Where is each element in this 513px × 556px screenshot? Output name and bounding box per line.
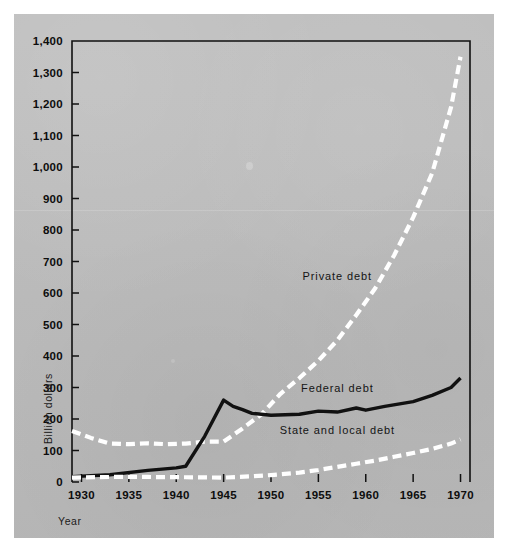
series-label-state-and-local-debt: State and local debt	[280, 424, 395, 436]
y-tick-label: 0	[56, 476, 63, 488]
x-tick-label: 1935	[115, 489, 142, 501]
x-tick-label: 1960	[352, 489, 379, 501]
y-tick-label: 500	[43, 319, 63, 331]
x-tick-label: 1970	[447, 489, 474, 501]
x-tick-label: 1945	[210, 489, 237, 501]
y-tick-label: 1,000	[33, 161, 63, 173]
y-tick-label: 900	[43, 193, 63, 205]
y-tick-label: 1,100	[33, 130, 63, 142]
tick-layer	[72, 73, 461, 483]
y-tick-label: 1,200	[33, 98, 63, 110]
x-axis-title: Year	[58, 515, 82, 527]
x-tick-label: 1950	[258, 489, 285, 501]
series-line-private-debt	[72, 57, 461, 444]
y-tick-label: 400	[43, 350, 63, 362]
y-tick-label: 700	[43, 256, 63, 268]
x-tick-label-layer: 193019351940194519501955196019651970	[68, 489, 474, 501]
debt-line-chart: 01002003004005006007008009001,0001,1001,…	[14, 14, 494, 538]
y-axis-title: Billion dollars	[42, 373, 54, 444]
y-tick-label: 600	[43, 287, 63, 299]
x-tick-label: 1940	[163, 489, 190, 501]
series-label-federal-debt: Federal debt	[301, 382, 374, 394]
y-tick-label: 800	[43, 224, 63, 236]
figure-panel: 01002003004005006007008009001,0001,1001,…	[14, 14, 494, 538]
x-tick-label: 1955	[305, 489, 332, 501]
series-label-private-debt: Private debt	[303, 270, 373, 282]
y-tick-label: 1,300	[33, 67, 63, 79]
x-tick-label: 1930	[68, 489, 95, 501]
y-tick-label: 100	[43, 445, 63, 457]
series-layer	[72, 57, 461, 478]
series-line-federal-debt	[72, 378, 461, 477]
x-tick-label: 1965	[400, 489, 427, 501]
y-tick-label: 1,400	[33, 35, 63, 47]
